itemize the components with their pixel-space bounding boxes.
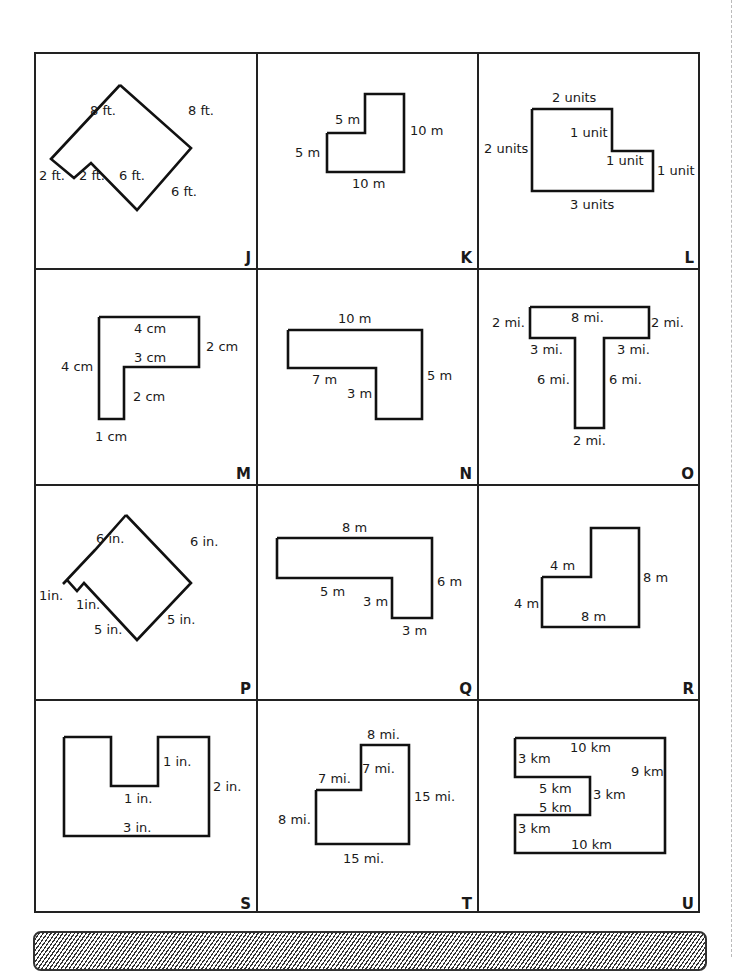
label: 4 cm [134,322,166,335]
figure-cell-t: 8 mi. 7 mi. 7 mi. 15 mi. 8 mi. 15 mi. T [257,700,478,915]
label: 5 in. [167,613,195,626]
figure-cell-q: 8 m 5 m 3 m 6 m 3 m Q [257,485,478,700]
figure-cell-k: 5 m 10 m 5 m 10 m K [257,54,478,269]
figure-shape-p [36,485,257,700]
figure-shape-j [36,54,257,269]
figure-shape-k [257,54,478,269]
figure-letter: K [460,249,472,267]
label: 3 mi. [530,343,563,356]
figure-letter: P [240,680,251,698]
hatched-footer-bar [33,931,707,971]
figure-cell-o: 2 mi. 8 mi. 2 mi. 3 mi. 3 mi. 6 mi. 6 mi… [478,270,700,485]
label: 1 in. [163,755,191,768]
label: 6 m [437,575,462,588]
label: 6 mi. [609,373,642,386]
label: 10 m [410,124,443,137]
figure-letter: S [240,895,251,913]
label: 1 unit [570,126,608,139]
label: 1 in. [124,792,152,805]
label: 7 mi. [362,762,395,775]
label: 3 units [570,198,614,211]
label: 1 unit [606,154,644,167]
label: 10 m [352,177,385,190]
page-edge-dashed-line [731,0,732,957]
label: 3 km [593,788,626,801]
label: 2 units [484,142,528,155]
label: 2 mi. [573,434,606,447]
figure-cell-s: 1 in. 2 in. 1 in. 3 in. S [36,700,257,915]
label: 15 mi. [414,790,455,803]
figure-cell-p: 6 in. 6 in. 1in. 1in. 5 in. 5 in. P [36,485,257,700]
label: 2 ft. [79,169,105,182]
figure-shape-o [478,270,700,485]
label: 3 mi. [617,343,650,356]
label: 6 ft. [171,185,197,198]
label: 10 km [571,838,612,851]
label: 1 cm [95,430,127,443]
label: 3 m [363,595,388,608]
label: 8 m [581,610,606,623]
label: 6 mi. [537,373,570,386]
label: 8 mi. [571,311,604,324]
figure-shape-u [478,700,700,915]
figure-letter: J [245,249,251,267]
figure-letter: M [236,465,251,483]
label: 5 in. [94,623,122,636]
label: 1in. [76,598,100,611]
label: 5 km [539,782,572,795]
label: 5 m [335,113,360,126]
label: 2 in. [213,780,241,793]
figure-letter: Q [459,680,472,698]
label: 9 km [631,765,664,778]
label: 4 cm [61,360,93,373]
label: 6 ft. [119,169,145,182]
label: 8 m [643,571,668,584]
label: 3 km [518,822,551,835]
figure-cell-r: 4 m 8 m 4 m 8 m R [478,485,700,700]
label: 8 ft. [188,104,214,117]
label: 2 cm [206,340,238,353]
figure-letter: R [682,680,694,698]
figure-cell-j: 8 ft. 8 ft. 2 ft. 2 ft. 6 ft. 6 ft. J [36,54,257,269]
figure-shape-s [36,700,257,915]
figure-shape-m [36,270,257,485]
label: 2 mi. [492,316,525,329]
label: 3 cm [134,351,166,364]
figure-shape-q [257,485,478,700]
label: 4 m [514,597,539,610]
label: 3 in. [123,821,151,834]
figure-cell-n: 10 m 7 m 3 m 5 m N [257,270,478,485]
label: 3 m [347,387,372,400]
figure-cell-u: 3 km 10 km 9 km 5 km 3 km 5 km 3 km 10 k… [478,700,700,915]
label: 10 m [338,312,371,325]
figure-grid: 8 ft. 8 ft. 2 ft. 2 ft. 6 ft. 6 ft. J 5 … [34,52,700,913]
figure-letter: L [684,249,694,267]
label: 5 m [427,369,452,382]
label: 5 km [539,801,572,814]
figure-letter: T [462,895,472,913]
label: 6 in. [96,532,124,545]
label: 15 mi. [343,852,384,865]
label: 2 cm [133,390,165,403]
figure-shape-l [478,54,700,269]
label: 10 km [570,741,611,754]
label: 8 m [342,521,367,534]
label: 1in. [39,589,63,602]
figure-shape-r [478,485,700,700]
label: 3 km [518,752,551,765]
figure-letter: O [681,465,694,483]
label: 2 mi. [651,316,684,329]
label: 1 unit [657,164,695,177]
label: 6 in. [190,535,218,548]
label: 7 m [312,373,337,386]
label: 2 units [552,91,596,104]
label: 7 mi. [318,772,351,785]
label: 8 ft. [90,104,116,117]
figure-cell-m: 4 cm 2 cm 4 cm 3 cm 2 cm 1 cm M [36,270,257,485]
label: 5 m [295,146,320,159]
figure-letter: U [682,895,694,913]
label: 5 m [320,585,345,598]
label: 2 ft. [39,169,65,182]
label: 4 m [550,559,575,572]
label: 8 mi. [278,813,311,826]
